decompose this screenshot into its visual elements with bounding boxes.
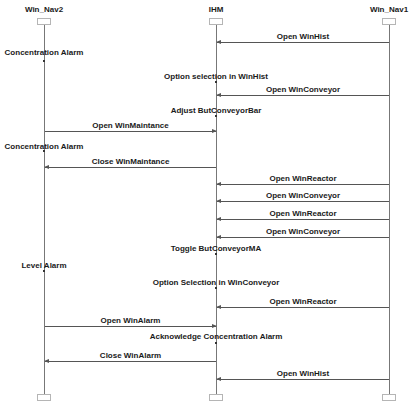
event-marker (215, 81, 217, 83)
lifeline-win-nav2 (44, 25, 45, 395)
message-label: Open WinMaintance (45, 121, 216, 130)
event-marker (215, 342, 217, 344)
event-marker (43, 150, 45, 152)
arrowhead-right-icon (212, 324, 217, 328)
event-label: Level Alarm (21, 261, 66, 270)
message-arrow: Open WinConveyor (217, 237, 389, 238)
arrowhead-left-icon (216, 217, 221, 221)
arrowhead-left-icon (44, 359, 49, 363)
event-label: Adjust ButConveyorBar (171, 106, 262, 115)
message-label: Open WinHist (217, 32, 389, 41)
lifeline-bottom-box-win-nav2 (37, 394, 51, 401)
message-arrow: Close WinMaintance (45, 167, 216, 168)
message-arrow: Open WinReactor (217, 184, 389, 185)
arrowhead-left-icon (216, 93, 221, 97)
arrowhead-left-icon (216, 199, 221, 203)
message-arrow: Open WinReactor (217, 219, 389, 220)
message-arrow: Open WinReactor (217, 307, 389, 308)
message-label: Open WinConveyor (217, 191, 389, 200)
arrowhead-left-icon (44, 165, 49, 169)
message-label: Open WinReactor (217, 297, 389, 306)
event-label: Acknowledge Concentration Alarm (150, 332, 283, 341)
lifeline-bottom-box-win-nav1 (382, 394, 396, 401)
message-arrow: Open WinAlarm (45, 326, 216, 327)
message-label: Open WinReactor (217, 209, 389, 218)
lifeline-top-box-win-nav2 (37, 18, 51, 25)
lifeline-header-ihm: IHM (209, 5, 224, 14)
message-arrow: Open WinMaintance (45, 131, 216, 132)
message-label: Open WinHist (217, 369, 389, 378)
lifeline-top-box-win-nav1 (382, 18, 396, 25)
lifeline-win-nav1 (389, 25, 390, 395)
message-label: Open WinConveyor (217, 85, 389, 94)
message-label: Close WinAlarm (45, 351, 216, 360)
message-label: Close WinMaintance (45, 157, 216, 166)
message-label: Open WinConveyor (217, 227, 389, 236)
arrowhead-left-icon (216, 235, 221, 239)
arrowhead-right-icon (212, 129, 217, 133)
event-marker (43, 270, 45, 272)
event-label: Option Selection in WinConveyor (153, 278, 280, 287)
message-arrow: Open WinConveyor (217, 201, 389, 202)
arrowhead-left-icon (216, 182, 221, 186)
lifeline-top-box-ihm (209, 18, 223, 25)
event-marker (215, 253, 217, 255)
event-marker (215, 115, 217, 117)
event-label: Option selection in WinHist (164, 72, 268, 81)
arrowhead-left-icon (216, 305, 221, 309)
arrowhead-left-icon (216, 377, 221, 381)
message-arrow: Open WinHist (217, 42, 389, 43)
message-arrow: Close WinAlarm (45, 361, 216, 362)
event-label: Toggle ButConveyorMA (171, 244, 262, 253)
message-label: Open WinAlarm (45, 316, 216, 325)
lifeline-bottom-box-ihm (209, 394, 223, 401)
event-marker (43, 60, 45, 62)
event-marker (215, 287, 217, 289)
lifeline-header-win-nav1: Win_Nav1 (370, 5, 408, 14)
lifeline-header-win-nav2: Win_Nav2 (25, 5, 63, 14)
message-label: Open WinReactor (217, 174, 389, 183)
message-arrow: Open WinHist (217, 379, 389, 380)
event-label: Concentration Alarm (5, 48, 84, 57)
message-arrow: Open WinConveyor (217, 95, 389, 96)
arrowhead-left-icon (216, 40, 221, 44)
